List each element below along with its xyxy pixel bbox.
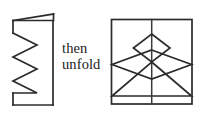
right-unfolded-sheet-group <box>112 20 193 105</box>
paper-folding-figure: then unfold <box>0 0 202 118</box>
fold-flap-slant-line <box>13 14 54 21</box>
zigzag-cut-line <box>13 33 37 93</box>
caption-then-unfold: then unfold <box>62 40 110 72</box>
left-folded-sheet-group <box>13 14 54 105</box>
